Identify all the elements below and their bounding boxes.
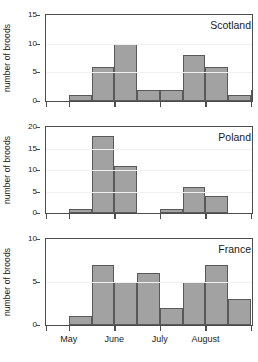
histogram-bar xyxy=(205,265,228,325)
x-tick-mark xyxy=(69,326,70,331)
x-tick-label: June xyxy=(105,333,125,345)
x-tick-mark xyxy=(205,102,206,107)
y-tick-mark xyxy=(36,101,40,102)
x-tick-mark xyxy=(46,214,47,219)
x-tick-mark xyxy=(114,102,115,107)
x-tick-mark xyxy=(160,326,161,331)
x-tick-mark xyxy=(160,214,161,219)
y-axis-label-poland: number of broods xyxy=(0,126,14,214)
y-axis-label-text: number of broods xyxy=(2,248,12,316)
y-axis-label-france: number of broods xyxy=(0,238,14,326)
y-tick-mark xyxy=(36,192,40,193)
x-tick-mark xyxy=(69,214,70,219)
gridline xyxy=(46,149,252,150)
y-tick-mark xyxy=(36,149,40,150)
gridline xyxy=(46,192,252,193)
y-axis-label-text: number of broods xyxy=(2,136,12,204)
multi-panel-histogram-figure: number of broods 051015 Scotland number … xyxy=(0,0,258,362)
x-tick-mark xyxy=(114,326,115,331)
y-tick-mark xyxy=(36,127,40,128)
y-axis-ticks-scotland: 051015 xyxy=(14,14,40,102)
histogram-bar xyxy=(205,196,228,213)
histogram-bar xyxy=(69,95,92,101)
histogram-bar xyxy=(228,95,251,101)
x-tick-mark xyxy=(205,214,206,219)
y-axis-label-text: number of broods xyxy=(2,24,12,92)
histogram-bar xyxy=(92,265,115,325)
y-tick-mark xyxy=(36,325,40,326)
histogram-bar xyxy=(114,282,137,325)
y-tick-mark xyxy=(36,44,40,45)
y-axis-ticks-france: 0510 xyxy=(14,238,40,326)
x-tick-mark xyxy=(46,102,47,107)
gridline xyxy=(46,44,252,45)
histogram-bar xyxy=(228,299,251,325)
x-tick-mark xyxy=(205,326,206,331)
histogram-bar xyxy=(69,316,92,325)
y-tick-mark xyxy=(36,170,40,171)
histogram-bar xyxy=(114,166,137,213)
panel-scotland: number of broods 051015 Scotland xyxy=(0,14,258,102)
panel-france: number of broods 0510 France xyxy=(0,238,258,326)
panel-title-france: France xyxy=(218,243,251,255)
x-axis-tickmarks-france xyxy=(45,326,253,331)
x-tick-mark xyxy=(251,102,252,107)
panel-title-poland: Poland xyxy=(218,131,251,143)
x-axis-tickmarks-poland xyxy=(45,214,253,219)
histogram-bar xyxy=(160,90,183,101)
gridline xyxy=(46,170,252,171)
x-tick-label: August xyxy=(191,333,219,345)
y-tick-mark xyxy=(36,72,40,73)
x-tick-mark xyxy=(251,326,252,331)
x-tick-mark xyxy=(46,326,47,331)
x-tick-label: May xyxy=(60,333,77,345)
panel-poland: number of broods 05101520 Poland xyxy=(0,126,258,214)
histogram-bar xyxy=(183,282,206,325)
x-tick-mark xyxy=(160,102,161,107)
histogram-bar xyxy=(183,55,206,101)
y-axis-label-scotland: number of broods xyxy=(0,14,14,102)
y-tick-mark xyxy=(36,15,40,16)
panel-title-scotland: Scotland xyxy=(210,19,251,31)
x-axis-labels: MayJuneJulyAugust xyxy=(45,333,253,347)
histogram-bar xyxy=(251,90,253,101)
y-tick-mark xyxy=(36,213,40,214)
histogram-bar xyxy=(137,90,160,101)
histogram-bar xyxy=(160,209,183,213)
x-tick-mark xyxy=(69,102,70,107)
x-tick-mark xyxy=(251,214,252,219)
gridline xyxy=(46,282,252,283)
x-tick-label: July xyxy=(152,333,168,345)
y-tick-mark xyxy=(36,282,40,283)
gridline xyxy=(46,72,252,73)
x-axis-tickmarks-scotland xyxy=(45,102,253,107)
histogram-bar xyxy=(160,308,183,325)
x-tick-mark xyxy=(114,214,115,219)
histogram-bar xyxy=(92,136,115,213)
y-axis-ticks-poland: 05101520 xyxy=(14,126,40,214)
y-tick-mark xyxy=(36,239,40,240)
histogram-bar xyxy=(69,209,92,213)
